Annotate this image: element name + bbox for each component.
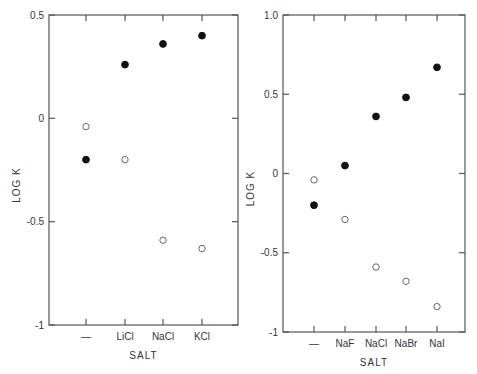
open-data-point	[122, 156, 128, 162]
x-axis-label: SALT	[129, 350, 157, 361]
y-tick-label: -1	[269, 327, 278, 338]
x-tick-label: NaF	[336, 338, 355, 349]
y-tick-label: -0.5	[261, 247, 279, 258]
filled-data-point	[311, 202, 318, 209]
y-tick-label: 0	[272, 168, 278, 179]
x-tick-label: NaCl	[152, 331, 174, 342]
x-tick-label: LiCl	[116, 331, 133, 342]
filled-data-point	[83, 156, 90, 163]
x-tick-label: —	[81, 331, 91, 342]
open-data-point	[199, 245, 205, 251]
filled-data-point	[403, 94, 410, 101]
x-tick-label: KCl	[194, 331, 210, 342]
open-data-point	[311, 177, 317, 183]
filled-data-point	[373, 113, 380, 120]
x-axis-label: SALT	[360, 357, 388, 368]
x-tick-label: NaBr	[395, 338, 418, 349]
filled-data-point	[434, 64, 441, 71]
y-axis-label: LOG K	[11, 167, 22, 203]
y-tick-label: 0.5	[264, 89, 278, 100]
x-tick-label: NaI	[429, 338, 445, 349]
filled-data-point	[122, 61, 129, 68]
y-axis-label: LOG K	[245, 171, 256, 207]
open-data-point	[342, 216, 348, 222]
filled-data-point	[199, 32, 206, 39]
y-tick-label: -0.5	[27, 216, 45, 227]
y-tick-label: 1.0	[264, 10, 278, 21]
open-data-point	[160, 237, 166, 243]
filled-data-point	[160, 41, 167, 48]
open-data-point	[434, 303, 440, 309]
y-tick-label: 0.5	[30, 10, 44, 21]
open-data-point	[373, 264, 379, 270]
chart-canvas: 0.50-0.5-1—LiClNaClKClSALTLOG K1.00.50-0…	[0, 0, 477, 374]
y-tick-label: 0	[38, 113, 44, 124]
open-data-point	[83, 123, 89, 129]
x-tick-label: —	[309, 338, 319, 349]
open-data-point	[403, 278, 409, 284]
plot-frame-0	[49, 15, 238, 325]
plot-frame-1	[283, 15, 465, 332]
x-tick-label: NaCl	[365, 338, 387, 349]
y-tick-label: -1	[35, 320, 44, 331]
filled-data-point	[342, 162, 349, 169]
